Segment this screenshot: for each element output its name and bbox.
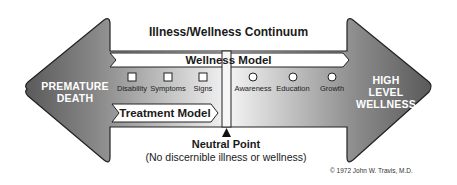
premature-death-line1: PREMATURE — [40, 80, 110, 92]
treatment-model-label: Treatment Model — [112, 105, 218, 121]
diagram-title: Illness/Wellness Continuum — [0, 25, 457, 39]
wellness-model-label: Wellness Model — [110, 53, 347, 67]
high-level-wellness-line3: WELLNESS — [350, 98, 422, 110]
neutral-point-description: (No discernible illness or wellness) — [126, 151, 326, 163]
illness-wellness-continuum-diagram: Illness/Wellness Continuum PREMATURE DEA… — [0, 0, 457, 185]
education-circle-icon — [289, 73, 297, 81]
premature-death-line2: DEATH — [40, 92, 110, 104]
awareness-label: Awareness — [234, 84, 272, 93]
high-level-wellness-line1: HIGH — [350, 74, 422, 86]
signs-label: Signs — [188, 84, 218, 93]
high-level-wellness-line2: LEVEL — [350, 86, 422, 98]
education-label: Education — [274, 84, 312, 93]
awareness-circle-icon — [249, 73, 257, 81]
neutral-point-label: Neutral Point — [176, 138, 276, 150]
growth-label: Growth — [316, 84, 348, 93]
disability-square-icon — [128, 73, 136, 81]
neutral-point-triangle-icon — [222, 128, 231, 137]
disability-label: Disability — [114, 84, 150, 93]
symptoms-square-icon — [164, 73, 172, 81]
signs-square-icon — [199, 73, 207, 81]
premature-death-label: PREMATURE DEATH — [40, 80, 110, 104]
high-level-wellness-label: HIGH LEVEL WELLNESS — [350, 74, 422, 110]
symptoms-label: Symptoms — [150, 84, 186, 93]
growth-circle-icon — [328, 73, 336, 81]
copyright-notice: © 1972 John W. Travis, M.D. — [330, 167, 413, 174]
